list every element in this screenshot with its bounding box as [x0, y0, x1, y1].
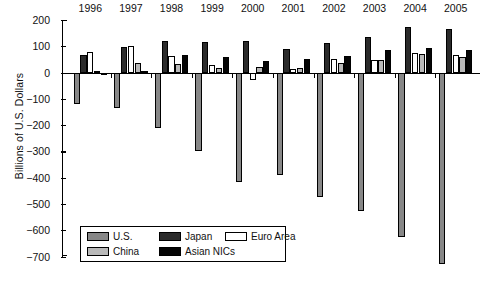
bar-group-2005: 2005: [437, 20, 474, 257]
x-axis-category-label: 2004: [397, 2, 434, 14]
legend-row-1: U.S.JapanEuro Area: [87, 231, 283, 244]
bar-asian-nics-1999: [223, 57, 229, 73]
bar-us-1999: [195, 73, 201, 151]
bar-japan-2004: [405, 27, 411, 72]
x-axis-tick: [435, 73, 436, 78]
bar-japan-1998: [162, 41, 168, 72]
bar-euro-area-2004: [412, 53, 418, 73]
legend-label: Asian NICs: [185, 246, 235, 257]
bar-china-2001: [297, 68, 303, 72]
bar-asian-nics-2003: [385, 50, 391, 72]
x-axis-category-label: 2001: [275, 2, 312, 14]
x-axis-tick: [273, 73, 274, 78]
y-axis-tick-label: 0: [0, 67, 50, 79]
bar-asian-nics-2002: [344, 56, 350, 73]
bar-japan-1996: [80, 55, 86, 72]
bar-group-2003: 2003: [356, 20, 393, 257]
chart-legend: U.S.JapanEuro Area ChinaAsian NICs: [80, 226, 286, 262]
legend-label: Euro Area: [251, 231, 295, 242]
bar-euro-area-2005: [453, 55, 459, 73]
legend-entry-asian-nics[interactable]: Asian NICs: [159, 246, 235, 257]
bar-group-1998: 1998: [153, 20, 190, 257]
x-axis-category-label: 1999: [194, 2, 231, 14]
bar-euro-area-1999: [209, 65, 215, 73]
y-axis-line: [62, 20, 63, 257]
bar-euro-area-2000: [250, 73, 256, 80]
bar-china-2003: [378, 60, 384, 72]
bar-japan-2003: [365, 37, 371, 73]
bar-group-2002: 2002: [316, 20, 353, 257]
bar-china-1998: [175, 64, 181, 72]
bar-asian-nics-2005: [466, 50, 472, 73]
legend-label: Japan: [185, 231, 212, 242]
legend-swatch-us: [87, 232, 109, 241]
y-axis-tick: [61, 73, 66, 74]
legend-swatch-japan: [159, 232, 181, 241]
y-axis-tick: [61, 125, 66, 126]
legend-entry-euro-area[interactable]: Euro Area: [225, 231, 295, 242]
x-axis-tick: [151, 73, 152, 78]
bar-japan-2001: [283, 49, 289, 72]
bar-us-1998: [155, 73, 161, 128]
bar-asian-nics-2000: [263, 61, 269, 73]
y-axis-tick: [61, 204, 66, 205]
bar-china-1997: [135, 63, 141, 73]
legend-entry-japan[interactable]: Japan: [159, 231, 212, 242]
bar-us-2000: [236, 73, 242, 182]
bar-euro-area-2003: [371, 60, 377, 72]
bar-china-2004: [419, 54, 425, 72]
bar-euro-area-1996: [87, 52, 93, 72]
bar-china-2000: [256, 67, 262, 73]
bar-japan-2002: [324, 43, 330, 72]
bar-asian-nics-2001: [304, 59, 310, 73]
legend-label: U.S.: [113, 231, 132, 242]
bar-china-2002: [338, 63, 344, 72]
bar-china-1999: [216, 68, 222, 72]
y-axis-tick-label: −300: [0, 145, 50, 157]
x-axis-tick: [314, 73, 315, 78]
bar-euro-area-1998: [168, 56, 174, 72]
bar-euro-area-1997: [128, 46, 134, 72]
x-axis-category-label: 2005: [437, 2, 474, 14]
bar-us-1996: [74, 73, 80, 105]
legend-entry-china[interactable]: China: [87, 246, 139, 257]
y-axis-tick-label: −200: [0, 119, 50, 131]
x-axis-category-label: 2002: [316, 2, 353, 14]
chart-figure: Billions of U.S. Dollars 2001000−100−200…: [0, 0, 499, 295]
bar-us-2005: [439, 73, 445, 265]
bar-us-2003: [358, 73, 364, 212]
x-axis-category-label: 1997: [113, 2, 150, 14]
legend-row-2: ChinaAsian NICs: [87, 246, 283, 259]
y-axis-tick: [61, 178, 66, 179]
legend-swatch-euro: [225, 232, 247, 241]
bar-asian-nics-1997: [141, 71, 147, 73]
bar-euro-area-2001: [290, 69, 296, 72]
bar-japan-2000: [243, 41, 249, 73]
x-axis-category-label: 1996: [72, 2, 109, 14]
bar-us-2004: [398, 73, 404, 237]
y-axis-tick-label: −400: [0, 172, 50, 184]
bar-asian-nics-2004: [426, 48, 432, 72]
bar-group-1999: 1999: [194, 20, 231, 257]
x-axis-category-label: 1998: [153, 2, 190, 14]
y-axis-tick: [61, 20, 66, 21]
y-axis-tick-label: 200: [0, 14, 50, 26]
legend-entry-us[interactable]: U.S.: [87, 231, 132, 242]
x-axis-tick: [232, 73, 233, 78]
legend-swatch-china: [87, 247, 109, 256]
y-axis-tick-label: −500: [0, 198, 50, 210]
bar-china-2005: [459, 57, 465, 73]
bar-group-1996: 1996: [72, 20, 109, 257]
bar-asian-nics-1998: [182, 55, 188, 73]
bar-asian-nics-1996: [101, 73, 107, 75]
y-axis-tick: [61, 46, 66, 47]
y-axis-tick: [61, 99, 66, 100]
y-axis-tick: [61, 151, 66, 152]
bar-euro-area-2002: [331, 59, 337, 73]
bar-us-2001: [277, 73, 283, 175]
x-axis-category-label: 2000: [234, 2, 271, 14]
legend-label: China: [113, 246, 139, 257]
bar-group-2004: 2004: [397, 20, 434, 257]
y-axis-tick-label: −600: [0, 224, 50, 236]
y-axis-tick: [61, 230, 66, 231]
